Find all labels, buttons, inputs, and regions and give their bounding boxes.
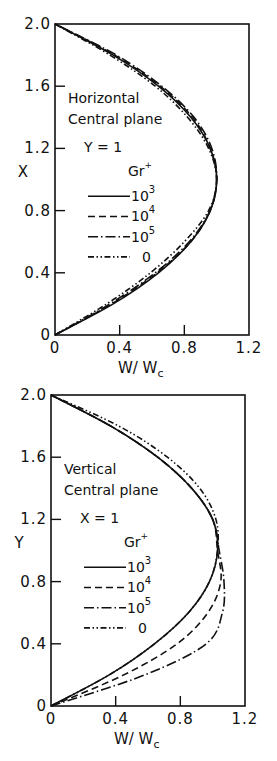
x-tick-label: 0.4 (102, 710, 129, 728)
x-tick-label: 0 (50, 339, 61, 357)
curve-gr-10e5 (51, 395, 225, 706)
x-tick-label: 0.4 (106, 339, 133, 357)
annotation-line-3: Y = 1 (83, 139, 122, 155)
x-tick-label: 0.8 (171, 339, 198, 357)
y-axis-label: X (18, 163, 28, 181)
y-axis-label: Y (13, 534, 24, 552)
y-tick-label: 0.4 (20, 635, 47, 653)
legend-label: 105 (131, 225, 155, 245)
chart-horizontal-central-plane: 00.40.81.21.62.000.40.81.2XW/ Wc Horizon… (0, 0, 277, 380)
plot-svg-top: 00.40.81.21.62.000.40.81.2XW/ Wc Horizon… (0, 0, 277, 380)
chart-vertical-central-plane: 00.40.81.21.62.000.40.81.2YW/ Wc Vertica… (0, 380, 277, 761)
x-tick-label: 0.8 (167, 710, 194, 728)
y-tick-label: 1.6 (20, 448, 47, 466)
plot-area (55, 24, 217, 335)
plot-frame (55, 24, 249, 335)
legend-label: 105 (127, 596, 151, 616)
x-axis-label: W/ Wc (118, 359, 164, 380)
legend-title: Gr+ (128, 160, 152, 179)
legend-label: 0 (138, 620, 147, 636)
annotation-line-2: Central plane (64, 482, 158, 498)
y-tick-label: 1.2 (20, 510, 47, 528)
legend-label: 103 (127, 555, 151, 575)
y-tick-label: 1.6 (24, 77, 51, 95)
y-tick-label: 2.0 (24, 15, 51, 33)
y-tick-label: 0.4 (24, 264, 51, 282)
x-axis-label: W/ Wc (114, 730, 160, 751)
legend: HorizontalCentral planeY = 1Gr+103104105… (68, 90, 162, 265)
curve-gr-10e4 (55, 24, 217, 335)
x-tick-label: 1.2 (232, 710, 259, 728)
plot-area (51, 395, 225, 706)
y-tick-label: 0.8 (24, 202, 51, 220)
x-tick-label: 0 (46, 710, 57, 728)
y-tick-label: 1.2 (24, 139, 51, 157)
legend-label: 104 (127, 575, 151, 595)
annotation-line-3: X = 1 (80, 510, 119, 526)
plot-frame (51, 395, 245, 706)
annotation-line-1: Vertical (64, 461, 116, 477)
y-tick-label: 2.0 (20, 386, 47, 404)
plot-svg-bottom: 00.40.81.21.62.000.40.81.2YW/ Wc Vertica… (0, 380, 277, 761)
legend-label: 104 (131, 204, 155, 224)
legend-title: Gr+ (124, 531, 148, 550)
annotation-line-1: Horizontal (68, 90, 139, 106)
x-tick-label: 1.2 (236, 339, 263, 357)
legend-label: 0 (142, 249, 151, 265)
annotation-line-2: Central plane (68, 111, 162, 127)
legend: VerticalCentral planeX = 1Gr+1031041050 (64, 461, 158, 636)
y-tick-label: 0.8 (20, 573, 47, 591)
legend-label: 103 (131, 184, 155, 204)
